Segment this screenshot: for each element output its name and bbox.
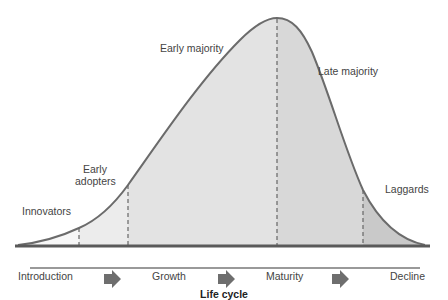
stage-introduction: Introduction [18, 270, 73, 282]
stage-growth: Growth [152, 270, 186, 282]
arrow-icon [218, 270, 235, 288]
axis-label-life-cycle: Life cycle [0, 288, 448, 300]
stage-maturity: Maturity [266, 270, 303, 282]
label-innovators: Innovators [22, 205, 71, 217]
stage-arrows [104, 270, 349, 288]
label-early-majority: Early majority [160, 42, 224, 54]
label-late-majority: Late majority [318, 65, 378, 77]
arrow-icon [104, 270, 121, 288]
label-laggards: Laggards [385, 183, 429, 195]
stage-decline: Decline [390, 270, 425, 282]
arrow-icon [332, 270, 349, 288]
label-early-adopters: Early adopters [75, 163, 115, 187]
adoption-curve-graphic [0, 0, 448, 300]
